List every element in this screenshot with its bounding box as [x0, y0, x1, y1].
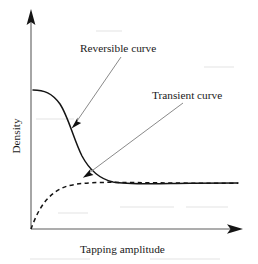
transient-leader-line	[89, 103, 183, 173]
reversible-leader-line	[77, 57, 121, 121]
y-axis-label: Density	[10, 118, 22, 153]
reversible-leader-arrowhead	[72, 117, 82, 128]
transient-curve	[31, 182, 238, 229]
plot-area: Reversible curve Transient curve Tapping…	[0, 0, 258, 264]
reversible-curve	[33, 90, 238, 184]
figure-canvas: Reversible curve Transient curve Tapping…	[0, 0, 258, 264]
annotation-reversible-curve: Reversible curve	[80, 42, 156, 54]
annotation-transient-curve: Transient curve	[152, 89, 222, 101]
x-axis-label: Tapping amplitude	[80, 243, 165, 255]
